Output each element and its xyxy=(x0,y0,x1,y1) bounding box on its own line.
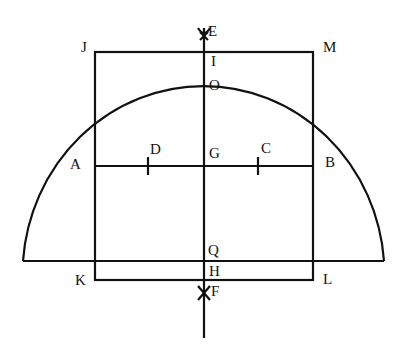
label-k: K xyxy=(75,273,86,288)
label-l: L xyxy=(323,272,332,287)
label-j: J xyxy=(81,40,87,55)
label-o: O xyxy=(209,78,220,93)
label-d: D xyxy=(150,142,161,157)
label-i: I xyxy=(211,54,216,69)
label-c: C xyxy=(261,141,271,156)
label-g: G xyxy=(209,146,220,161)
label-h: H xyxy=(209,264,220,279)
diagram-canvas: E J M I O A D G C B Q H K L F xyxy=(0,0,404,358)
label-m: M xyxy=(323,40,336,55)
label-q: Q xyxy=(208,243,219,258)
label-a: A xyxy=(70,157,81,172)
label-b: B xyxy=(325,155,335,170)
label-e: E xyxy=(208,24,217,39)
label-f: F xyxy=(211,284,219,299)
construction-drawing xyxy=(0,0,404,358)
